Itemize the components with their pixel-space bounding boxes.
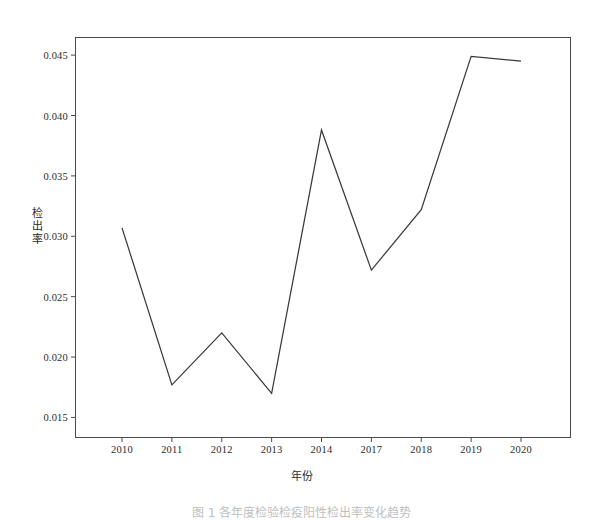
figure-caption: 图 1 各年度检验检疫阳性检出率变化趋势: [0, 503, 603, 520]
x-axis-tick-marks: [122, 438, 521, 442]
x-axis-tick-label: 2013: [261, 444, 283, 455]
y-axis-tick-label: 0.045: [43, 50, 68, 61]
x-axis-tick-label: 2019: [460, 444, 482, 455]
y-axis-title-char: 率: [30, 233, 44, 246]
x-axis-tick-label: 2011: [161, 444, 182, 455]
y-axis-title-char: 检: [30, 207, 44, 220]
y-axis-tick-label: 0.025: [43, 291, 68, 302]
y-axis-tick-label: 0.015: [43, 412, 68, 423]
x-axis-tick-label: 2010: [111, 444, 133, 455]
y-axis-tick-label: 0.035: [43, 170, 68, 181]
x-axis-tick-label: 2020: [510, 444, 532, 455]
y-axis-tick-label: 0.040: [43, 110, 68, 121]
y-axis-tick-label-group: 0.0450.0400.0350.0300.0250.0200.015: [0, 0, 68, 513]
plot-area-frame: [75, 37, 571, 438]
x-axis-tick-label: 2012: [211, 444, 233, 455]
x-axis-tick-label: 2018: [410, 444, 432, 455]
x-axis-title: 年份: [0, 467, 603, 483]
x-axis-tick-label: 2017: [360, 444, 382, 455]
y-axis-title: 检出率: [30, 207, 44, 246]
x-axis-tick-label: 2014: [311, 444, 333, 455]
x-axis-tick-label-group: 201020112012201320142017201820192020: [0, 444, 603, 460]
y-axis-tick-label: 0.030: [43, 231, 68, 242]
y-axis-title-char: 出: [30, 220, 44, 233]
y-axis-tick-label: 0.020: [43, 352, 68, 363]
